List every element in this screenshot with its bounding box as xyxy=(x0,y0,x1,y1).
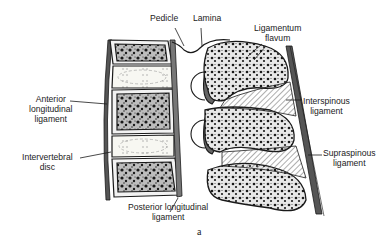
label-interspinous-ligament: Interspinous ligament xyxy=(303,96,350,116)
label-ligamentum-flavum: Ligamentum flavum xyxy=(254,23,301,43)
label-intervertebral-disc: Intervertebral disc xyxy=(22,152,73,172)
label-supraspinous-ligament: Supraspinous ligament xyxy=(323,148,376,168)
figure-caption: a xyxy=(197,226,201,237)
label-pedicle: Pedicle xyxy=(150,13,178,23)
anterior-longitudinal-ligament-shape xyxy=(104,40,112,200)
label-anterior-longitudinal-ligament: Anterior longitudinal ligament xyxy=(29,94,72,124)
vertebral-column xyxy=(110,40,180,197)
label-lamina: Lamina xyxy=(193,13,221,23)
label-posterior-longitudinal-ligament: Posterior longitudinal ligament xyxy=(128,202,208,222)
